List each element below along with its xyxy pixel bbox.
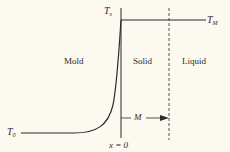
label-t-0: T0 <box>7 127 16 138</box>
label-t-m: TM <box>207 15 218 26</box>
region-liquid: Liquid <box>182 57 206 66</box>
mold-temperature-curve <box>21 20 121 133</box>
arrowhead-icon <box>160 115 169 121</box>
region-mold: Mold <box>64 57 84 66</box>
label-t-s: Ts <box>104 6 112 17</box>
label-x-origin: x = 0 <box>109 141 128 150</box>
label-m: M <box>134 113 142 122</box>
temperature-profile-diagram <box>0 0 230 152</box>
region-solid: Solid <box>133 57 152 66</box>
